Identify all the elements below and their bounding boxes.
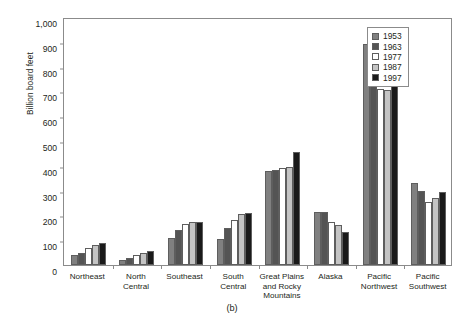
bar [439, 192, 446, 265]
legend-swatch-icon [372, 64, 379, 71]
x-tick-mark [307, 265, 308, 269]
x-axis-label-line: South [209, 272, 258, 282]
bar [182, 224, 189, 265]
bar [78, 253, 85, 265]
bar-group [259, 19, 308, 265]
bar-group [210, 19, 259, 265]
legend-swatch-icon [372, 43, 379, 50]
x-axis-label-line: Central [112, 282, 161, 292]
bar [245, 213, 252, 265]
bar [119, 260, 126, 265]
bar-group [113, 19, 162, 265]
bar-group [161, 19, 210, 265]
x-tick-mark [404, 265, 405, 269]
bar-group [404, 19, 453, 265]
bar [231, 220, 238, 265]
legend-swatch-icon [372, 33, 379, 40]
legend-label: 1987 [383, 62, 402, 72]
bar [133, 255, 140, 265]
x-axis-label-line: Pacific [403, 272, 452, 282]
bar-group [64, 19, 113, 265]
bar [370, 59, 377, 265]
x-axis-label-line: Mountains [258, 291, 307, 301]
bar [189, 222, 196, 265]
legend-item[interactable]: 1963 [372, 41, 402, 51]
bar [238, 214, 245, 265]
legend-swatch-icon [372, 74, 379, 81]
bar [217, 239, 224, 265]
bar [384, 90, 391, 265]
bar [286, 167, 293, 265]
bar [272, 170, 279, 265]
bar [99, 243, 106, 265]
bar [140, 253, 147, 265]
bar [85, 248, 92, 265]
y-axis-title: Billion board feet [26, 0, 35, 115]
x-tick-mark [161, 265, 162, 269]
x-axis-label-line: Southwest [403, 282, 452, 292]
x-axis-label-line: and Rocky [258, 282, 307, 292]
x-axis-label: SouthCentral [209, 272, 258, 291]
x-axis-label-line: Pacific [355, 272, 404, 282]
bar [168, 238, 175, 265]
bar [321, 212, 328, 265]
x-axis-label-line: North [112, 272, 161, 282]
legend-label: 1997 [383, 73, 402, 83]
x-axis-label-line: Northeast [63, 272, 112, 282]
bar [342, 232, 349, 265]
legend: 19531963197719871997 [367, 27, 409, 87]
bar [328, 222, 335, 265]
bar [391, 69, 398, 265]
x-axis-label: Alaska [306, 272, 355, 282]
figure: Billion board feet 010020030040050060070… [0, 0, 464, 328]
x-axis-label-line: Southeast [160, 272, 209, 282]
legend-label: 1953 [383, 31, 402, 41]
bar [418, 191, 425, 265]
bar [196, 222, 203, 265]
bar [377, 89, 384, 265]
x-axis-label: Great Plainsand RockyMountains [258, 272, 307, 301]
legend-item[interactable]: 1997 [372, 73, 402, 83]
bar [224, 228, 231, 265]
figure-caption: (b) [0, 303, 464, 313]
legend-swatch-icon [372, 53, 379, 60]
bar [335, 225, 342, 265]
x-axis-label: Northeast [63, 272, 112, 282]
bar [279, 168, 286, 265]
x-axis-label: NorthCentral [112, 272, 161, 291]
x-axis-label-line: Northwest [355, 282, 404, 292]
x-axis-label-line: Central [209, 282, 258, 292]
bar [432, 198, 439, 265]
bar-group [307, 19, 356, 265]
bar [265, 171, 272, 265]
x-axis-label-line: Alaska [306, 272, 355, 282]
x-tick-mark [356, 265, 357, 269]
x-axis-label: Southeast [160, 272, 209, 282]
x-tick-mark [210, 265, 211, 269]
legend-label: 1977 [383, 52, 402, 62]
bar [92, 245, 99, 265]
legend-item[interactable]: 1953 [372, 31, 402, 41]
bar [71, 255, 78, 265]
legend-item[interactable]: 1977 [372, 52, 402, 62]
bar [411, 183, 418, 265]
legend-label: 1963 [383, 42, 402, 52]
bar [175, 230, 182, 265]
bar [425, 202, 432, 265]
bar [147, 251, 154, 265]
x-axis-label: PacificSouthwest [403, 272, 452, 291]
x-tick-mark [259, 265, 260, 269]
bar [314, 212, 321, 265]
bar [126, 258, 133, 265]
x-tick-mark [113, 265, 114, 269]
legend-item[interactable]: 1987 [372, 62, 402, 72]
x-axis-label: PacificNorthwest [355, 272, 404, 291]
x-axis-label-line: Great Plains [258, 272, 307, 282]
bar [293, 152, 300, 265]
